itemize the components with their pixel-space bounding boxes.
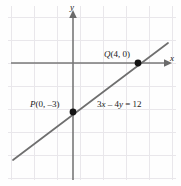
point-label-q: Q(4, 0) [104, 50, 130, 59]
point-label-p-coords: (0, –3) [36, 99, 60, 109]
x-axis [11, 59, 172, 67]
equation-label: 3x – 4y = 12 [97, 100, 142, 109]
graph-figure: y x Q(4, 0) P(0, –3) 3x – 4y = 12 [0, 0, 181, 186]
grid-lines [8, 6, 176, 180]
equation-equals: = [123, 99, 133, 109]
point-marker-p [70, 109, 77, 116]
equation-rhs: 12 [133, 99, 142, 109]
equation-operator: – [106, 99, 115, 109]
point-label-q-coords: (4, 0) [111, 49, 131, 59]
coordinate-plane-svg [0, 0, 181, 186]
point-label-p: P(0, –3) [30, 100, 60, 109]
y-axis-label: y [70, 3, 74, 12]
point-marker-q [135, 60, 142, 67]
x-axis-label: x [170, 54, 174, 63]
